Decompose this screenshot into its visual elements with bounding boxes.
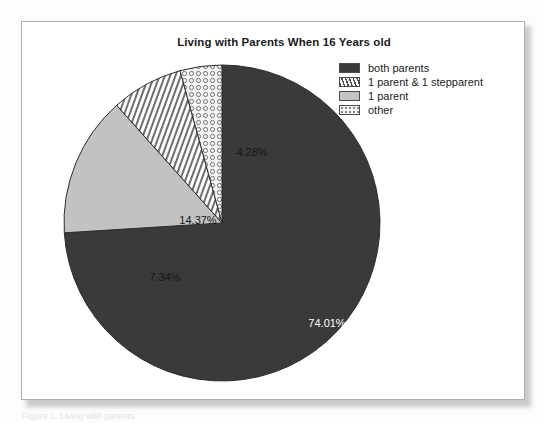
legend-label-other: other	[368, 104, 393, 116]
scanned-page: Living with Parents When 16 Years old	[0, 0, 545, 423]
legend-label-one-parent: 1 parent	[368, 90, 408, 102]
legend-item-one-parent: 1 parent	[339, 89, 519, 103]
legend-label-one-parent-one-stepparent: 1 parent & 1 stepparent	[368, 76, 483, 88]
legend-item-one-parent-one-stepparent: 1 parent & 1 stepparent	[339, 75, 519, 89]
legend-swatch-one-parent-one-stepparent	[339, 77, 360, 87]
legend-swatch-both-parents	[339, 63, 360, 73]
pie-chart-svg: 74.01%14.37%7.34%4.28%	[62, 63, 382, 383]
pie-chart: 74.01%14.37%7.34%4.28%	[62, 63, 382, 383]
chart-title: Living with Parents When 16 Years old	[22, 36, 524, 48]
pie-slice-label: 4.28%	[236, 146, 267, 158]
legend-swatch-other	[339, 105, 360, 115]
legend-item-both-parents: both parents	[339, 61, 519, 75]
chart-panel: Living with Parents When 16 Years old	[21, 21, 525, 400]
legend-label-both-parents: both parents	[368, 62, 429, 74]
chart-legend: both parents 1 parent & 1 stepparent 1 p…	[339, 61, 519, 117]
pie-slice-label: 7.34%	[149, 271, 180, 283]
legend-item-other: other	[339, 103, 519, 117]
legend-swatch-one-parent	[339, 91, 360, 101]
pie-slice-label: 74.01%	[308, 317, 346, 329]
page-caption-sliver: Figure 1. Living with parents	[22, 411, 252, 421]
pie-slice-label: 14.37%	[179, 214, 217, 226]
